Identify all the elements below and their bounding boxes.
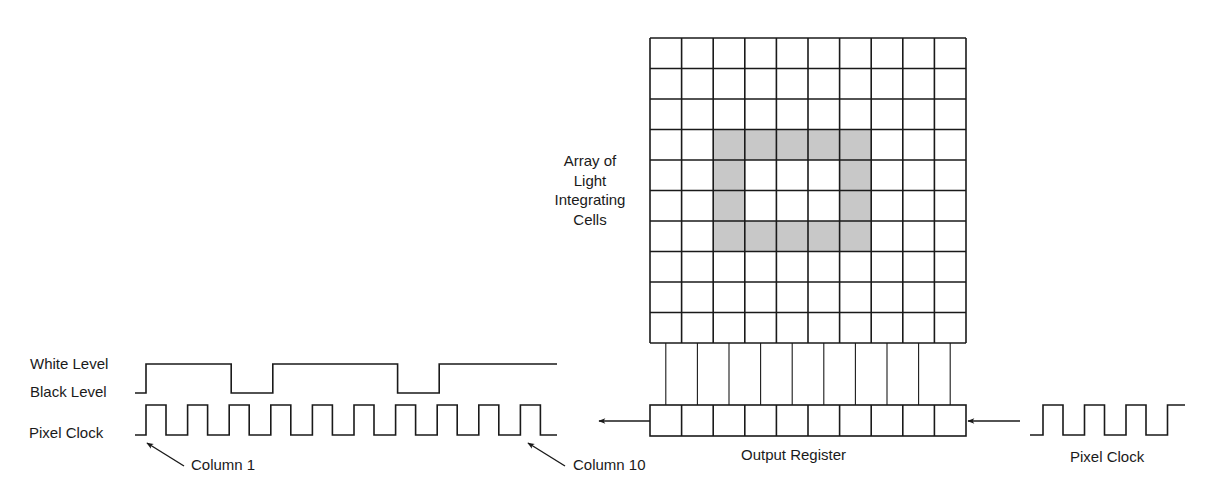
array-label-line-4: Cells — [548, 210, 632, 230]
shaded-cell — [745, 130, 777, 161]
array-label: Array of Light Integrating Cells — [548, 151, 632, 229]
column-10-arrow-icon — [528, 443, 565, 466]
column-1-label: Column 1 — [191, 456, 255, 474]
shaded-cell — [840, 130, 872, 161]
video-signal-waveform — [135, 364, 557, 393]
shaded-cell — [808, 221, 840, 252]
light-integrating-cell-array — [650, 38, 966, 343]
ccd-readout-diagram — [0, 0, 1208, 490]
array-label-line-2: Light — [548, 171, 632, 191]
shaded-cell — [840, 191, 872, 222]
black-level-label: Black Level — [30, 383, 107, 401]
column-transfer-lines — [666, 343, 950, 405]
shaded-cell — [713, 130, 745, 161]
pixel-clock-label-left: Pixel Clock — [29, 424, 103, 442]
shaded-cell — [776, 221, 808, 252]
pixel-clock-waveform-right — [1030, 405, 1185, 435]
column-1-arrow-icon — [147, 443, 184, 466]
output-register — [650, 405, 966, 436]
shaded-cell — [713, 221, 745, 252]
shaded-cell — [745, 221, 777, 252]
shaded-cell — [713, 160, 745, 191]
shaded-cell — [808, 130, 840, 161]
white-level-label: White Level — [30, 355, 108, 373]
shaded-cell — [713, 191, 745, 222]
pixel-clock-waveform-left — [135, 405, 557, 435]
pixel-clock-label-right: Pixel Clock — [1070, 448, 1144, 466]
shaded-cell — [840, 160, 872, 191]
array-label-line-1: Array of — [548, 151, 632, 171]
shaded-cell — [776, 130, 808, 161]
array-label-line-3: Integrating — [548, 190, 632, 210]
output-register-label: Output Register — [741, 446, 846, 464]
column-10-label: Column 10 — [573, 456, 646, 474]
shaded-cell — [840, 221, 872, 252]
